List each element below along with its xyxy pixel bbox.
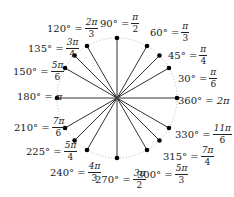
angle-point xyxy=(145,148,150,153)
degree-text: 30° = xyxy=(178,74,207,84)
angle-label: 300° = 5π3 xyxy=(137,164,188,185)
radian-text: 2π xyxy=(217,96,230,106)
angle-point xyxy=(167,66,172,71)
angle-label: 30° = π6 xyxy=(178,68,217,89)
angle-point xyxy=(115,36,120,41)
radian-fraction: π3 xyxy=(181,22,189,43)
angle-label: 150° = 5π6 xyxy=(13,61,64,82)
degree-text: 270° = xyxy=(95,175,131,185)
degree-text: 135° = xyxy=(28,44,64,54)
angle-point xyxy=(85,44,90,49)
degree-text: 300° = xyxy=(137,170,173,180)
degree-text: 225° = xyxy=(26,147,62,157)
angle-label: 45° = π4 xyxy=(168,45,207,66)
radian-fraction: π6 xyxy=(209,68,217,89)
angle-point xyxy=(145,44,150,49)
radian-fraction: 5π4 xyxy=(64,141,78,162)
angle-label: 180° = π xyxy=(17,92,62,102)
angle-label: 210° = 7π6 xyxy=(14,117,65,138)
radian-text: π xyxy=(56,92,63,102)
angle-label: 120° = 2π3 xyxy=(47,18,98,39)
radian-fraction: 11π6 xyxy=(213,124,232,145)
degree-text: 360° = xyxy=(178,96,214,106)
angle-label: 90° = π2 xyxy=(100,13,139,34)
angle-label: 135° = 3π4 xyxy=(28,38,79,59)
angle-point xyxy=(85,148,90,153)
angle-label: 60° = π3 xyxy=(150,22,189,43)
degree-text: 210° = xyxy=(14,123,50,133)
radian-fraction: 3π4 xyxy=(66,38,80,59)
angle-label: 315° = 7π4 xyxy=(163,146,214,167)
angle-label: 330° = 11π6 xyxy=(175,124,232,145)
degree-text: 150° = xyxy=(13,67,49,77)
angle-point xyxy=(157,138,162,143)
radian-fraction: 5π3 xyxy=(175,164,189,185)
radian-fraction: 5π6 xyxy=(51,61,65,82)
degree-text: 120° = xyxy=(47,24,83,34)
angle-label: 360° = 2π xyxy=(178,96,230,106)
angle-point xyxy=(167,126,172,131)
degree-text: 60° = xyxy=(150,28,179,38)
radian-fraction: 2π3 xyxy=(85,18,99,39)
degree-text: 180° = xyxy=(17,92,53,102)
degree-text: 330° = xyxy=(175,130,211,140)
radian-fraction: 7π6 xyxy=(52,117,66,138)
angle-label: 240° = 4π3 xyxy=(50,162,101,183)
degree-text: 45° = xyxy=(168,51,197,61)
radian-fraction: π4 xyxy=(199,45,207,66)
degree-text: 315° = xyxy=(163,152,199,162)
angle-label: 225° = 5π4 xyxy=(26,141,77,162)
degree-text: 90° = xyxy=(100,19,129,29)
radian-fraction: 7π4 xyxy=(201,146,215,167)
degree-text: 240° = xyxy=(50,168,86,178)
angle-point xyxy=(157,53,162,58)
angle-point xyxy=(115,156,120,161)
radian-fraction: π2 xyxy=(131,13,139,34)
